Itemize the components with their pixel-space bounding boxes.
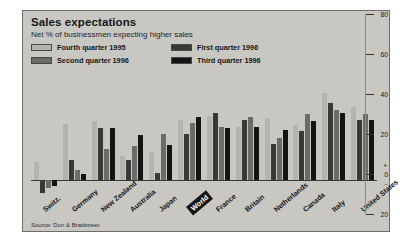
bar: [34, 162, 39, 180]
legend-swatch-icon: [171, 57, 192, 64]
bar: [207, 116, 212, 180]
bar: [213, 113, 218, 180]
bar: [277, 138, 282, 180]
y-axis-tick: [366, 214, 374, 215]
bar-group: [319, 68, 348, 208]
y-axis-tick: [366, 134, 374, 135]
legend-item: Third quarter 1996: [171, 55, 311, 66]
chart-figure: Sales expectations Net % of businessmen …: [0, 0, 412, 244]
bar: [283, 130, 288, 180]
bar: [104, 149, 109, 180]
legend-label: Second quarter 1996: [57, 56, 129, 65]
bar: [190, 123, 195, 180]
chart-title: Sales expectations: [31, 16, 136, 28]
bar: [132, 146, 137, 180]
y-axis-tick-label: 40: [380, 91, 388, 98]
legend-item: First quarter 1996: [171, 42, 311, 53]
bar: [334, 110, 339, 180]
bar: [63, 124, 68, 180]
bar: [196, 117, 201, 180]
bar: [305, 114, 310, 180]
axis-minus-sign: -: [385, 180, 387, 187]
bar-group: [31, 68, 60, 208]
bar: [184, 134, 189, 180]
legend-label: First quarter 1996: [197, 43, 258, 52]
bar: [242, 120, 247, 180]
bar: [299, 131, 304, 180]
y-axis-tick-label: 20: [380, 131, 388, 138]
bar: [311, 121, 316, 180]
bar: [155, 173, 160, 180]
legend-swatch-icon: [31, 57, 52, 64]
bar: [340, 113, 345, 180]
bar: [46, 180, 51, 188]
y-axis-tick: [366, 174, 374, 175]
bar: [110, 128, 115, 180]
legend-swatch-icon: [31, 44, 52, 51]
y-axis-tick-label: 20: [380, 211, 388, 218]
bar: [167, 145, 172, 180]
bar: [322, 93, 327, 180]
plot-area: [31, 68, 377, 208]
bar: [236, 127, 241, 180]
bar: [126, 160, 131, 180]
bar-group: [60, 68, 89, 208]
bar-group: [262, 68, 291, 208]
bar: [149, 152, 154, 180]
source-note: Source: Dun & Bradstreet: [31, 222, 99, 228]
bar-group: [204, 68, 233, 208]
bar: [178, 120, 183, 180]
bar: [120, 156, 125, 180]
y-axis: 80604020020+-: [356, 10, 390, 222]
bar: [271, 144, 276, 180]
bars-container: [31, 68, 377, 208]
bar: [161, 134, 166, 180]
legend-label: Third quarter 1996: [197, 56, 261, 65]
chart-legend: Fourth quarter 1995First quarter 1996Sec…: [31, 42, 311, 68]
y-axis-tick: [366, 54, 374, 55]
bar: [75, 170, 80, 180]
y-axis-tick-label: 80: [380, 11, 388, 18]
y-axis-tick-label: 60: [380, 51, 388, 58]
legend-label: Fourth quarter 1995: [57, 43, 126, 52]
y-axis-tick-label: 0: [384, 171, 388, 178]
bar: [52, 180, 57, 186]
bar: [328, 103, 333, 180]
y-axis-tick: [366, 94, 374, 95]
bar-group: [233, 68, 262, 208]
legend-item: Fourth quarter 1995: [31, 42, 171, 53]
chart-panel: Sales expectations Net % of businessmen …: [22, 10, 390, 232]
chart-subtitle: Net % of businessmen expecting higher sa…: [31, 30, 193, 39]
bar: [265, 118, 270, 180]
legend-item: Second quarter 1996: [31, 55, 171, 66]
bar-group: [175, 68, 204, 208]
bar: [81, 174, 86, 180]
axis-plus-sign: +: [383, 162, 387, 169]
y-axis-line: [365, 14, 366, 214]
bar: [138, 135, 143, 180]
y-axis-tick: [366, 14, 374, 15]
legend-row: Fourth quarter 1995First quarter 1996: [31, 42, 311, 53]
bar: [40, 180, 45, 193]
bar: [92, 121, 97, 180]
bar: [219, 127, 224, 180]
bar: [98, 128, 103, 180]
bar: [254, 127, 259, 180]
bar: [293, 125, 298, 180]
bar: [248, 117, 253, 180]
legend-swatch-icon: [171, 44, 192, 51]
bar: [225, 128, 230, 180]
bar: [69, 160, 74, 180]
legend-row: Second quarter 1996Third quarter 1996: [31, 55, 311, 66]
